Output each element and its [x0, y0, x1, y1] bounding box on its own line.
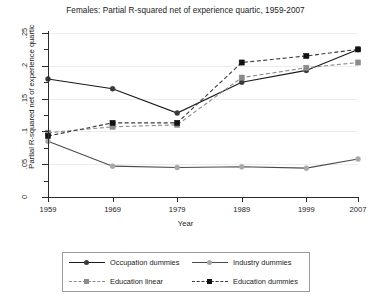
- data-point: [239, 60, 244, 65]
- y-tick-minor: [44, 148, 48, 149]
- chart-title: Females: Partial R-squared net of experi…: [0, 6, 371, 15]
- legend-label: Education dummies: [233, 277, 298, 286]
- data-point: [110, 86, 115, 91]
- x-tick-label: 1989: [221, 205, 263, 214]
- data-point: [304, 166, 309, 171]
- series-industry-dummies: [46, 139, 361, 171]
- legend-label: Occupation dummies: [110, 258, 179, 267]
- plot-area: [48, 33, 358, 197]
- y-tick-minor: [44, 49, 48, 50]
- series-line: [48, 49, 358, 136]
- data-point: [175, 111, 180, 116]
- x-tick-label: 1959: [27, 205, 69, 214]
- data-point: [175, 120, 180, 125]
- data-point: [304, 53, 309, 58]
- x-tick: [177, 197, 178, 202]
- y-tick: [42, 131, 48, 132]
- y-tick: [42, 164, 48, 165]
- y-tick-minor: [44, 181, 48, 182]
- x-tick: [242, 197, 243, 202]
- y-tick: [42, 33, 48, 34]
- x-tick: [113, 197, 114, 202]
- legend-swatch: [192, 258, 228, 267]
- legend: Occupation dummiesIndustry dummiesEducat…: [62, 252, 310, 292]
- x-tick-label: 2007: [337, 205, 371, 214]
- x-tick-label: 1999: [285, 205, 327, 214]
- chart-container: Females: Partial R-squared net of experi…: [0, 0, 371, 304]
- data-point: [239, 164, 244, 169]
- x-axis-line: [48, 197, 359, 198]
- y-tick-minor: [44, 115, 48, 116]
- legend-marker-circle-icon: [207, 260, 212, 265]
- x-axis-title: Year: [0, 219, 371, 228]
- legend-item-occupation-dummies[interactable]: Occupation dummies: [63, 258, 186, 267]
- y-tick: [42, 66, 48, 67]
- y-tick-label: .2: [21, 53, 29, 79]
- legend-item-education-dummies[interactable]: Education dummies: [186, 277, 309, 286]
- legend-swatch: [69, 258, 105, 267]
- series-education-linear: [45, 60, 360, 135]
- data-point: [304, 65, 309, 70]
- x-tick: [48, 197, 49, 202]
- series-line: [48, 63, 358, 133]
- y-tick-minor: [44, 82, 48, 83]
- x-tick-label: 1969: [92, 205, 134, 214]
- legend-marker-square-icon: [207, 279, 212, 284]
- series-line: [48, 49, 358, 113]
- legend-marker-circle-icon: [84, 260, 89, 265]
- legend-swatch: [69, 277, 105, 286]
- legend-item-education-linear[interactable]: Education linear: [63, 277, 186, 286]
- y-tick-label: .15: [21, 86, 29, 112]
- y-tick-label: .1: [21, 118, 29, 144]
- legend-label: Education linear: [110, 277, 163, 286]
- data-point: [110, 120, 115, 125]
- legend-item-industry-dummies[interactable]: Industry dummies: [186, 258, 309, 267]
- legend-label: Industry dummies: [233, 258, 291, 267]
- x-tick: [358, 197, 359, 202]
- x-tick-label: 1979: [156, 205, 198, 214]
- data-point: [356, 156, 361, 161]
- legend-marker-square-icon: [84, 279, 89, 284]
- y-tick-label: .05: [21, 151, 29, 177]
- y-tick-label: .25: [21, 20, 29, 46]
- series-occupation-dummies: [46, 47, 361, 116]
- data-point: [175, 165, 180, 170]
- y-tick: [42, 99, 48, 100]
- series-education-dummies: [45, 47, 360, 139]
- legend-swatch: [192, 277, 228, 286]
- data-point: [355, 47, 360, 52]
- x-tick: [306, 197, 307, 202]
- data-point: [110, 164, 115, 169]
- series-lines: [48, 33, 358, 197]
- series-line: [48, 141, 358, 168]
- data-point: [239, 75, 244, 80]
- data-point: [355, 60, 360, 65]
